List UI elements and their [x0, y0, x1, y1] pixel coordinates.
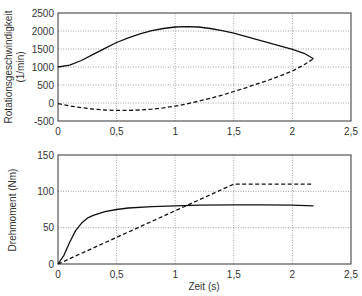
plot-frame [58, 155, 351, 264]
y-tick-label: 500 [37, 80, 54, 91]
rotation-speed-plot: 00,511,522,525002000150010005000-500Rota… [3, 8, 358, 138]
series-solid-line [58, 27, 314, 67]
x-tick-label: 2 [290, 126, 296, 137]
y-tick-label: 0 [48, 98, 54, 109]
x-tick-label: 1 [172, 126, 178, 137]
x-tick-label: 0 [55, 126, 61, 137]
x-tick-label: 0,5 [110, 269, 124, 280]
y-tick-label: 1000 [32, 62, 55, 73]
x-tick-label: 2,5 [344, 269, 358, 280]
y-tick-label: 2500 [32, 8, 55, 19]
series-solid-line [58, 205, 314, 264]
plot-frame [58, 13, 351, 121]
y-axis-unit-label: (1/min) [15, 51, 26, 82]
series-dashed-line [58, 184, 314, 264]
chart-canvas: 00,511,522,525002000150010005000-500Rota… [0, 0, 362, 296]
x-tick-label: 1 [172, 269, 178, 280]
x-tick-label: 2 [290, 269, 296, 280]
x-tick-label: 1,5 [227, 269, 241, 280]
x-tick-label: 0,5 [110, 126, 124, 137]
x-axis-label: Zeit (s) [188, 281, 219, 292]
x-tick-label: 2,5 [344, 126, 358, 137]
y-tick-label: -500 [34, 116, 54, 127]
y-tick-label: 2000 [32, 26, 55, 37]
y-tick-label: 100 [37, 186, 54, 197]
y-axis-label: Rotationsgeschwindigkeit [3, 10, 14, 123]
y-tick-label: 50 [43, 222, 55, 233]
x-tick-label: 0 [55, 269, 61, 280]
y-axis-label: Drehmoment (Nm) [7, 169, 18, 252]
y-tick-label: 150 [37, 150, 54, 161]
torque-plot: 00,511,522,5150100500Drehmoment (Nm)Zeit… [7, 150, 358, 293]
y-tick-label: 0 [48, 259, 54, 270]
x-tick-label: 1,5 [227, 126, 241, 137]
y-tick-label: 1500 [32, 44, 55, 55]
